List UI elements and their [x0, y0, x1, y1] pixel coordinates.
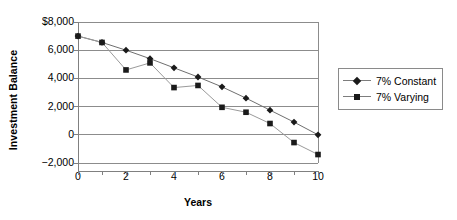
legend-label-series-1: 7% Constant: [376, 75, 436, 87]
data-point-marker-diamond: [219, 83, 226, 90]
data-point-marker-diamond: [315, 131, 322, 138]
data-point-marker-diamond: [195, 74, 202, 81]
data-point-marker-square: [267, 121, 273, 127]
series-line-2: [78, 36, 318, 154]
data-point-marker-diamond: [243, 95, 250, 102]
data-point-marker-square: [219, 105, 225, 111]
data-point-marker-square: [99, 40, 105, 46]
chart-legend: 7% Constant 7% Varying: [338, 68, 443, 110]
data-point-marker-diamond: [291, 119, 298, 126]
data-point-marker-diamond: [267, 107, 274, 114]
legend-item-series-2[interactable]: 7% Varying: [343, 89, 436, 105]
plot-area: [0, 0, 457, 220]
square-marker-icon: [343, 91, 371, 103]
data-point-marker-square: [171, 85, 177, 91]
data-point-marker-square: [75, 33, 81, 39]
legend-item-series-1[interactable]: 7% Constant: [343, 73, 436, 89]
legend-label-series-2: 7% Varying: [376, 91, 429, 103]
data-point-marker-square: [315, 152, 321, 158]
chart-figure: Investment Balance −2,00002,0004,0006,00…: [0, 0, 457, 220]
data-point-marker-square: [123, 67, 129, 73]
data-point-marker-square: [291, 140, 297, 146]
data-point-marker-square: [147, 60, 153, 66]
data-point-marker-square: [195, 83, 201, 89]
data-point-marker-diamond: [171, 64, 178, 71]
data-point-marker-diamond: [123, 47, 130, 54]
data-point-marker-square: [243, 109, 249, 115]
diamond-marker-icon: [343, 75, 371, 87]
